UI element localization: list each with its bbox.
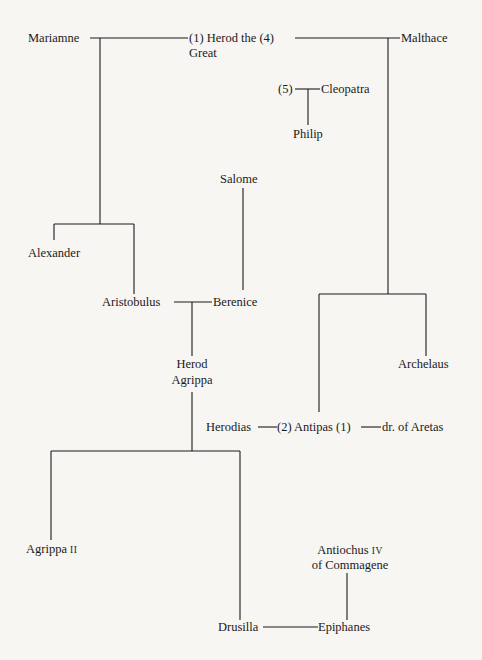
person-drusilla: Drusilla: [218, 620, 258, 635]
person-herod-agrippa-line2: Agrippa: [162, 373, 222, 388]
person-herod-the-great-line2: Great: [189, 46, 217, 61]
antiochus-name: Antiochus: [317, 543, 368, 557]
person-antiochus-iv-line1: Antiochus IV: [302, 543, 398, 559]
person-salome: Salome: [220, 172, 258, 187]
antiochus-numeral: IV: [372, 546, 383, 556]
person-mariamne: Mariamne: [28, 31, 79, 46]
person-agrippa-ii: Agrippa II: [26, 542, 77, 558]
family-tree-diagram: Mariamne (1) Herod the (4) Great Malthac…: [0, 0, 482, 660]
person-epiphanes: Epiphanes: [318, 620, 370, 635]
person-philip: Philip: [293, 127, 323, 142]
person-malthace: Malthace: [401, 31, 448, 46]
person-herod-the-great-line1: (1) Herod the (4): [189, 31, 274, 46]
person-antipas: (2) Antipas (1): [277, 420, 351, 435]
person-herodias: Herodias: [206, 420, 251, 435]
agrippa-ii-numeral: II: [70, 545, 77, 555]
person-archelaus: Archelaus: [398, 357, 449, 372]
person-antiochus-iv-line2: of Commagene: [302, 558, 398, 573]
person-aristobulus: Aristobulus: [102, 295, 160, 310]
agrippa-ii-name: Agrippa: [26, 542, 67, 556]
person-berenice: Berenice: [213, 295, 257, 310]
person-cleopatra: Cleopatra: [321, 82, 370, 97]
connector-lines: [0, 0, 482, 660]
person-daughter-of-aretas: dr. of Aretas: [382, 420, 443, 435]
marriage-marker-5: (5): [278, 82, 293, 97]
person-herod-agrippa-line1: Herod: [162, 357, 222, 372]
person-alexander: Alexander: [28, 246, 80, 261]
